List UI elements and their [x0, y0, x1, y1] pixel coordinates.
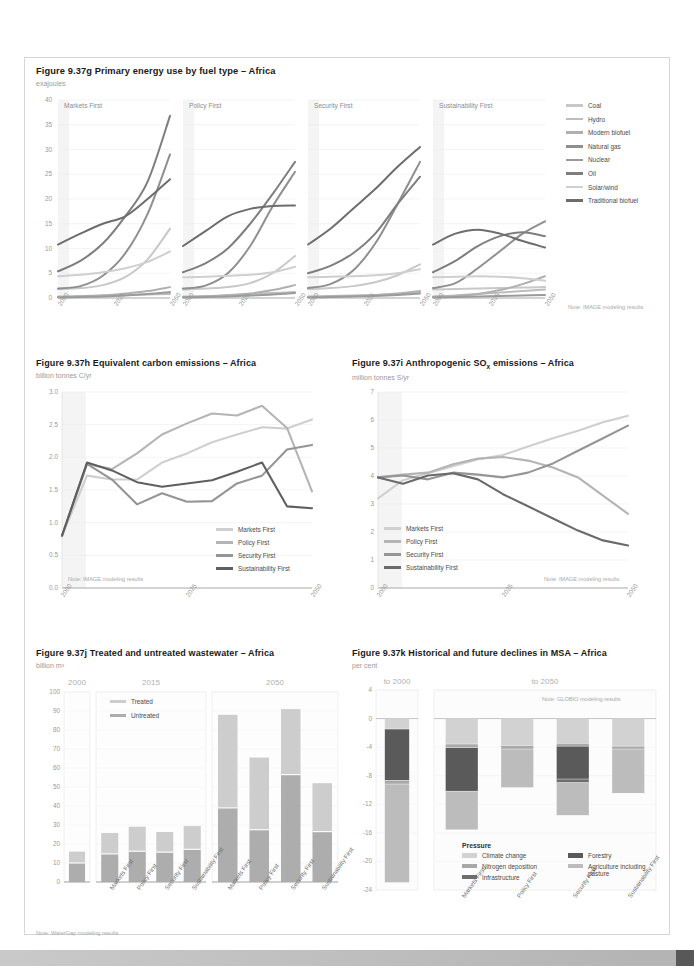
figure-937k-unit-label: per cent — [352, 662, 662, 669]
legend-item-label: Untreated — [131, 712, 159, 719]
figure-937i-note: Note: IMAGE modeling results — [544, 576, 619, 582]
figure-937j-unit-label: billion m³ — [36, 662, 346, 669]
figure-937k-group-label: to 2050 — [434, 677, 656, 686]
figure-937g-ytick: 0 — [32, 294, 52, 301]
legend-item-label: Security First — [238, 552, 275, 559]
figure-937g-ytick: 25 — [32, 170, 52, 177]
legend-item-label: Infrastructure — [482, 874, 520, 881]
figure-937h-ytick: 3.0 — [36, 388, 58, 395]
figure-937g-legend-item[interactable]: Coal — [566, 102, 638, 109]
legend-color-swatch — [110, 700, 126, 703]
figure-937j-ytick: 60 — [36, 764, 60, 771]
figure-937h-legend-item[interactable]: Security First — [216, 552, 290, 559]
figure-937h-legend-item[interactable]: Sustainability First — [216, 565, 290, 572]
figure-937g-note: Note: IMAGE modeling results — [568, 304, 643, 310]
figure-937g-legend-item[interactable]: Solar/wind — [566, 184, 638, 191]
figure-937j-ytick: 20 — [36, 840, 60, 847]
legend-color-swatch — [566, 172, 583, 175]
figure-937i-ytick: 3 — [352, 500, 374, 507]
legend-item-label: Security First — [406, 551, 443, 558]
figure-937i-ytick: 2 — [352, 528, 374, 535]
legend-color-swatch — [384, 540, 401, 543]
legend-item-label: Sustainability First — [406, 564, 458, 571]
figure-937g-legend-item[interactable]: Traditional biofuel — [566, 197, 638, 204]
figure-937k: Figure 9.37k Historical and future decli… — [352, 648, 662, 933]
legend-item-label: Markets First — [238, 526, 275, 533]
figure-937h-note: Note: IMAGE modeling results — [68, 576, 143, 582]
figure-937g-legend-item[interactable]: Oil — [566, 170, 638, 177]
figure-937k-ytick: -24 — [348, 886, 372, 893]
figure-937g-ytick: 5 — [32, 269, 52, 276]
figure-937g-panel-label: Sustainability First — [439, 102, 493, 109]
figure-937g-legend-item[interactable]: Nuclear — [566, 156, 638, 163]
legend-item-label: Coal — [588, 102, 601, 109]
figure-937g-ytick: 15 — [32, 220, 52, 227]
figure-937j-ytick: 80 — [36, 726, 60, 733]
figure-937k-ytick: 0 — [348, 715, 372, 722]
figure-937j-group-label: 2015 — [96, 678, 206, 687]
legend-color-swatch — [216, 567, 233, 570]
figure-937i-legend-item[interactable]: Markets First — [384, 525, 458, 532]
legend-color-swatch — [566, 186, 583, 189]
figure-937g-ytick: 40 — [32, 96, 52, 103]
legend-color-swatch — [566, 145, 583, 148]
figure-937j-ytick: 10 — [36, 859, 60, 866]
figure-937g-ytick: 35 — [32, 121, 52, 128]
figure-937h-title: Figure 9.37h Equivalent carbon emissions… — [36, 358, 346, 368]
figure-937j-ytick: 90 — [36, 707, 60, 714]
legend-color-swatch — [566, 159, 583, 162]
figure-937i-ytick: 4 — [352, 472, 374, 479]
figure-937k-ytick: 4 — [348, 686, 372, 693]
figure-937k-group-label: to 2000 — [376, 677, 418, 686]
figure-937j-plot-area: 20002015Markets FirstPolicy FirstSecurit… — [36, 674, 346, 932]
figure-937i: Figure 9.37i Anthropogenic SOx emissions… — [352, 358, 662, 638]
figure-937g-legend-item[interactable]: Natural gas — [566, 143, 638, 150]
figure-937k-legend-item[interactable]: Nitrogen deposition — [462, 863, 556, 870]
figure-937i-title-suffix: emissions – Africa — [490, 358, 574, 368]
legend-item-label: Hydro — [588, 116, 605, 123]
figure-937k-legend-item[interactable]: Climate change — [462, 852, 556, 859]
figure-937h-ytick: 0.5 — [36, 551, 58, 558]
figure-937j-legend-item[interactable]: Untreated — [110, 712, 159, 719]
legend-color-swatch — [568, 864, 583, 869]
figure-937k-legend-title: Pressure — [462, 842, 662, 849]
figure-937i-legend: Markets FirstPolicy FirstSecurity FirstS… — [384, 525, 458, 577]
figure-937i-legend-item[interactable]: Sustainability First — [384, 564, 458, 571]
figure-937h-legend-item[interactable]: Policy First — [216, 539, 290, 546]
figure-937g-legend-item[interactable]: Modern biofuel — [566, 129, 638, 136]
figure-937j-ytick: 70 — [36, 745, 60, 752]
figure-937k-legend-item[interactable]: Infrastructure — [462, 874, 556, 881]
figure-937i-title: Figure 9.37i Anthropogenic SOx emissions… — [352, 358, 662, 370]
figure-937g-legend-item[interactable]: Hydro — [566, 116, 638, 123]
figure-937i-svg — [352, 386, 662, 638]
figure-937j-svg — [36, 674, 346, 932]
figure-937j-ytick: 50 — [36, 783, 60, 790]
legend-color-swatch — [462, 864, 477, 869]
legend-item-label: Traditional biofuel — [588, 197, 638, 204]
figure-937g-ytick: 10 — [32, 245, 52, 252]
legend-color-swatch — [566, 118, 583, 121]
figure-937k-legend-item[interactable]: Forestry — [568, 852, 662, 859]
legend-item-label: Natural gas — [588, 143, 621, 150]
figure-937i-legend-item[interactable]: Policy First — [384, 538, 458, 545]
figure-937j-ytick: 40 — [36, 802, 60, 809]
legend-color-swatch — [384, 553, 401, 556]
figure-937j-legend-item[interactable]: Treated — [110, 698, 159, 705]
figure-937j-ytick: 100 — [36, 688, 60, 695]
figure-937k-legend-item[interactable]: Agriculture including pasture — [568, 863, 662, 878]
figure-937j-note: Note: WaterGap modeling results. — [36, 930, 120, 936]
figure-937g-ytick: 30 — [32, 146, 52, 153]
figure-937k-ytick: -12 — [348, 800, 372, 807]
legend-color-swatch — [566, 131, 583, 134]
legend-color-swatch — [384, 527, 401, 530]
figure-937j-group-label: 2050 — [212, 678, 338, 687]
legend-color-swatch — [462, 853, 477, 858]
figure-937g: Figure 9.37g Primary energy use by fuel … — [36, 66, 661, 346]
figure-937h-ytick: 2.0 — [36, 453, 58, 460]
figure-937g-panel-label: Markets First — [64, 102, 102, 109]
figure-937i-legend-item[interactable]: Security First — [384, 551, 458, 558]
figure-937h-ytick: 1.0 — [36, 519, 58, 526]
figure-937h-legend-item[interactable]: Markets First — [216, 526, 290, 533]
figure-937k-svg — [352, 674, 662, 932]
legend-item-label: Climate change — [482, 852, 526, 859]
